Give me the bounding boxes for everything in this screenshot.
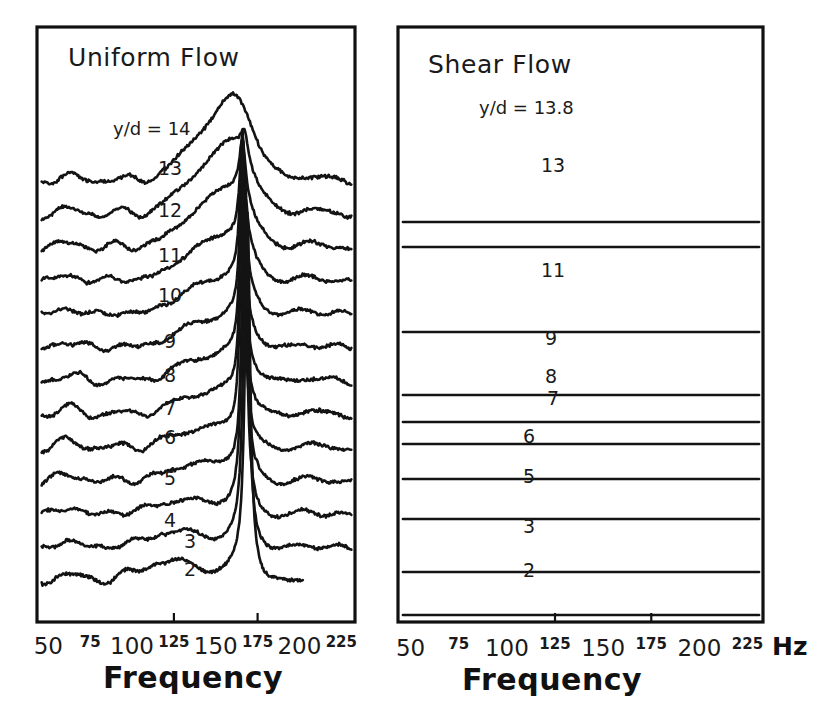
trace-label-uniform-4: 4 <box>164 509 176 531</box>
axis-tick-label-175: 175 <box>636 635 667 653</box>
axis-tick-label-200: 200 <box>277 633 321 659</box>
trace-label-shear-6: 6 <box>523 425 535 447</box>
axis-tick-label-125: 125 <box>539 635 570 653</box>
trace-label-uniform-10: 10 <box>158 284 182 306</box>
figure-background <box>0 0 817 704</box>
axis-tick-label-175: 175 <box>242 633 273 651</box>
trace-label-shear-2: 2 <box>523 559 535 581</box>
axis-tick-label-225: 225 <box>732 635 763 653</box>
trace-label-shear-9: 9 <box>545 327 557 349</box>
axis-tick-label-50: 50 <box>34 633 63 659</box>
trace-label-uniform-7: 7 <box>164 397 176 419</box>
trace-label-shear-8: 8 <box>545 365 557 387</box>
trace-label-shear-13p8: y/d = 13.8 <box>479 97 574 118</box>
trace-label-shear-3: 3 <box>523 515 535 537</box>
axis-tick-label-150: 150 <box>581 635 625 661</box>
axis-tick-label-225: 225 <box>326 633 357 651</box>
trace-label-uniform-13: 13 <box>158 157 182 179</box>
axis-title-uniform: Frequency <box>103 660 283 695</box>
axis-tick-label-200: 200 <box>677 635 721 661</box>
axis-tick-label-75: 75 <box>80 633 101 651</box>
trace-label-shear-5: 5 <box>523 465 535 487</box>
trace-label-shear-7: 7 <box>547 387 559 409</box>
spectra-figure: Uniform Flow y/d = 14 13 12 11 10 9 8 7 … <box>0 0 817 704</box>
trace-label-shear-13: 13 <box>541 154 565 176</box>
axis-title-shear: Frequency <box>462 662 642 697</box>
panel-title-uniform: Uniform Flow <box>68 43 240 72</box>
axis-tick-label-125: 125 <box>158 633 189 651</box>
trace-label-uniform-3: 3 <box>184 530 196 552</box>
trace-label-uniform-14: y/d = 14 <box>113 118 191 139</box>
axis-tick-label-75: 75 <box>448 635 469 653</box>
trace-label-uniform-12: 12 <box>158 199 182 221</box>
trace-label-uniform-6: 6 <box>164 426 176 448</box>
axis-tick-label-50: 50 <box>396 635 425 661</box>
trace-label-uniform-5: 5 <box>164 467 176 489</box>
panel-title-shear: Shear Flow <box>428 50 572 79</box>
axis-tick-label-150: 150 <box>194 633 238 659</box>
trace-label-shear-11: 11 <box>541 259 565 281</box>
trace-label-uniform-11: 11 <box>158 244 182 266</box>
trace-label-uniform-8: 8 <box>164 364 176 386</box>
trace-label-uniform-9: 9 <box>164 330 176 352</box>
axis-tick-label-100: 100 <box>485 635 529 661</box>
axis-unit-label-hz: Hz <box>772 632 807 661</box>
trace-label-uniform-2: 2 <box>184 558 196 580</box>
axis-tick-label-100: 100 <box>110 633 154 659</box>
